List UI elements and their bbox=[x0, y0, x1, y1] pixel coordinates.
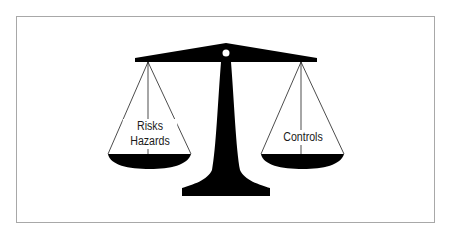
left-pan-label: Risks Hazards bbox=[123, 119, 177, 149]
label-controls: Controls bbox=[277, 130, 330, 145]
right-pan bbox=[261, 154, 344, 169]
balance-scale bbox=[0, 0, 452, 235]
left-pan bbox=[108, 154, 191, 169]
scale-pillar bbox=[182, 62, 270, 196]
label-hazards: Hazards bbox=[124, 134, 177, 149]
label-risks: Risks bbox=[124, 119, 177, 134]
right-pan-label: Controls bbox=[276, 130, 330, 145]
pivot-hole bbox=[223, 50, 230, 57]
